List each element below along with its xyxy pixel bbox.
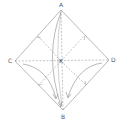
edge-tick <box>38 84 42 85</box>
fold-line-lower-right <box>61 61 86 85</box>
origami-diagram: A B C D K <box>0 0 120 123</box>
label-k: K <box>59 57 64 64</box>
label-a: A <box>59 1 64 8</box>
fold-line-upper-left <box>38 36 61 61</box>
fold-line-upper-right <box>61 35 85 61</box>
fold-arrow-c-to-b <box>23 64 56 98</box>
edge-tick <box>84 36 85 40</box>
fold-arrow-d-to-b <box>68 63 102 97</box>
label-b: B <box>61 113 65 120</box>
label-c: C <box>8 57 12 64</box>
edge-tick <box>85 81 86 85</box>
label-d: D <box>111 56 116 63</box>
